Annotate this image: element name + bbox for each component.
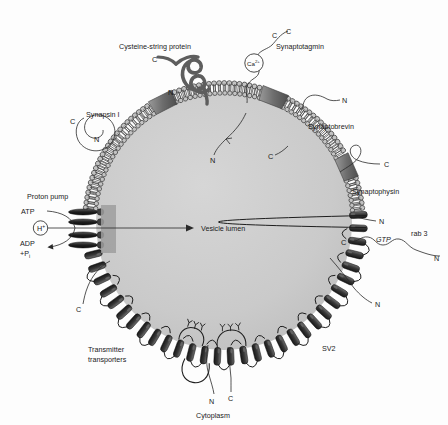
synaptotagmin-label: Synaptotagmin <box>276 42 324 51</box>
synaptophysin-n-terminus: N <box>379 217 384 226</box>
syt-c-letter: C <box>286 27 291 36</box>
synapsin-label: Synapsin I <box>86 110 120 119</box>
synaptobrevin-c-terminus: C <box>268 152 274 161</box>
rab3-c-terminus: C <box>341 238 347 247</box>
rab3-gtp-label: GTP <box>376 235 391 244</box>
synapsin-i: Synapsin I C N <box>70 110 120 151</box>
csp-n-terminus: N <box>168 88 173 97</box>
proton-pump-ion: H+ <box>37 223 45 233</box>
rab3-label: rab 3 <box>411 229 427 238</box>
proton-pump-atp: ATP <box>21 207 35 216</box>
sv2-n-terminus: N <box>375 300 380 309</box>
synaptic-vesicle-diagram: H+ Proton pump ATP ADP +Pi Cysteine-stri… <box>0 0 448 425</box>
synaptobrevin-n-terminus: N <box>342 96 347 105</box>
transmitter-transporters-label-1: Transmitter <box>88 345 125 354</box>
cysteine-string-protein-label: Cysteine-string protein <box>119 42 191 51</box>
synaptophysin-c-terminus: C <box>384 160 389 169</box>
vesicle-lumen-label: Vesicle lumen <box>201 224 245 233</box>
csp-c-terminus: C <box>152 55 158 64</box>
synapsin-n-terminus: N <box>94 135 99 144</box>
proton-pump-adp: ADP <box>20 239 35 248</box>
transmitter-transporters-label-2: transporters <box>88 355 127 364</box>
synaptobrevin-label: Synaptobrevin <box>308 122 354 131</box>
synaptophysin-label: Synaptophysin <box>352 187 399 196</box>
proton-pump-pi: +Pi <box>20 249 30 259</box>
bottom-n-terminus: N <box>209 397 214 406</box>
bottom-c-terminus: C <box>228 394 233 403</box>
synaptotagmin-n-terminus: N <box>210 156 215 165</box>
synaptotagmin-c-terminus: C <box>272 31 277 40</box>
synapsin-c-terminus: C <box>70 117 76 126</box>
figure-canvas: H+ Proton pump ATP ADP +Pi Cysteine-stri… <box>0 0 448 425</box>
transporter-c-terminus: C <box>76 305 81 314</box>
proton-pump-label: Proton pump <box>27 192 68 201</box>
rab3-n-terminus: N <box>434 254 439 263</box>
sv2-label: SV2 <box>322 344 336 353</box>
cytoplasm-label: Cytoplasm <box>196 411 230 420</box>
